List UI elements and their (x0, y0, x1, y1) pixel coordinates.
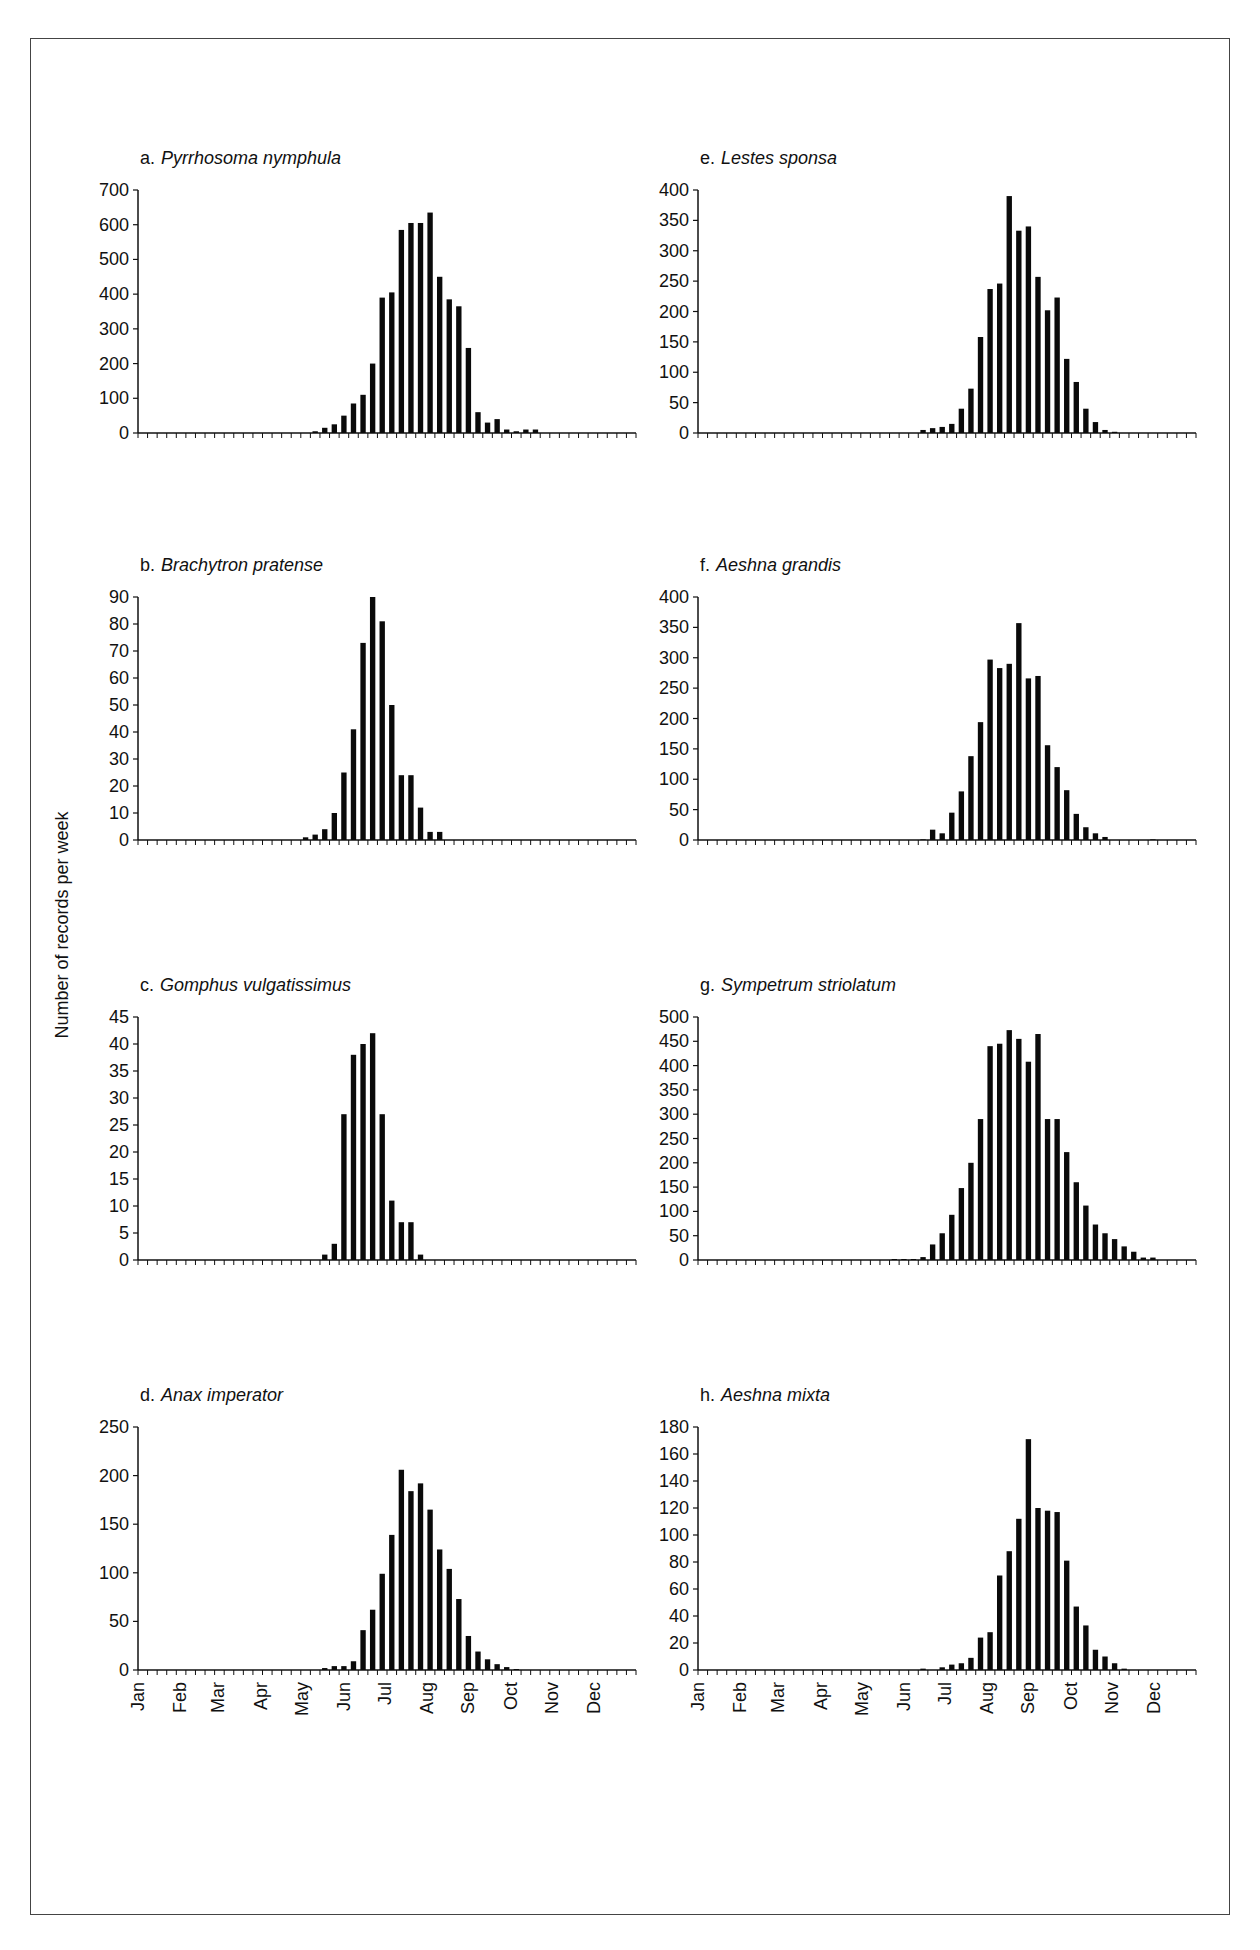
svg-text:450: 450 (659, 1031, 689, 1051)
species-name: Lestes sponsa (721, 148, 837, 168)
svg-text:150: 150 (659, 1177, 689, 1197)
svg-text:10: 10 (109, 803, 129, 823)
species-name: Sympetrum striolatum (721, 975, 896, 995)
svg-text:Oct: Oct (1061, 1682, 1081, 1710)
bar-chart: 050100150200250JanFebMarAprMayJunJulAugS… (90, 1415, 650, 1705)
species-name: Aeshna mixta (721, 1385, 830, 1405)
svg-text:300: 300 (659, 241, 689, 261)
svg-text:140: 140 (659, 1471, 689, 1491)
svg-text:35: 35 (109, 1061, 129, 1081)
svg-text:100: 100 (99, 1563, 129, 1583)
svg-text:Jan: Jan (128, 1682, 148, 1711)
svg-text:20: 20 (669, 1633, 689, 1653)
svg-text:200: 200 (659, 1153, 689, 1173)
svg-text:Jun: Jun (894, 1682, 914, 1711)
panel-d: d.Anax imperator 050100150200250JanFebMa… (90, 1385, 650, 1715)
svg-text:Oct: Oct (501, 1682, 521, 1710)
svg-text:400: 400 (659, 1056, 689, 1076)
svg-text:Dec: Dec (584, 1682, 604, 1714)
svg-text:250: 250 (659, 678, 689, 698)
svg-text:200: 200 (659, 302, 689, 322)
bar-chart: 0102030405060708090 (90, 585, 650, 875)
svg-text:50: 50 (669, 393, 689, 413)
svg-text:160: 160 (659, 1444, 689, 1464)
bar-chart: 050100150200250300350400 (650, 178, 1210, 468)
bar-chart: 0100200300400500600700 (90, 178, 650, 468)
svg-text:70: 70 (109, 641, 129, 661)
svg-text:0: 0 (679, 1660, 689, 1680)
svg-text:350: 350 (659, 1080, 689, 1100)
svg-text:30: 30 (109, 1088, 129, 1108)
svg-text:Sep: Sep (458, 1682, 478, 1714)
svg-text:40: 40 (109, 1034, 129, 1054)
svg-text:Nov: Nov (1102, 1682, 1122, 1714)
svg-text:5: 5 (119, 1223, 129, 1243)
svg-text:200: 200 (99, 354, 129, 374)
panel-letter: e. (700, 148, 715, 168)
svg-text:0: 0 (119, 423, 129, 443)
svg-text:150: 150 (659, 739, 689, 759)
bar-chart: 050100150200250300350400450500 (650, 1005, 1210, 1295)
svg-text:20: 20 (109, 1142, 129, 1162)
svg-text:Aug: Aug (977, 1682, 997, 1714)
svg-text:150: 150 (99, 1514, 129, 1534)
svg-text:25: 25 (109, 1115, 129, 1135)
svg-text:0: 0 (119, 1250, 129, 1270)
bar-chart: 051015202530354045 (90, 1005, 650, 1295)
svg-text:80: 80 (109, 614, 129, 634)
svg-text:50: 50 (669, 800, 689, 820)
svg-text:100: 100 (659, 769, 689, 789)
svg-text:Jul: Jul (375, 1682, 395, 1705)
panel-f: f.Aeshna grandis 05010015020025030035040… (650, 555, 1210, 885)
panel-letter: h. (700, 1385, 715, 1405)
svg-text:300: 300 (659, 648, 689, 668)
svg-text:30: 30 (109, 749, 129, 769)
panel-letter: d. (140, 1385, 155, 1405)
svg-text:350: 350 (659, 210, 689, 230)
svg-text:400: 400 (659, 587, 689, 607)
svg-text:100: 100 (99, 388, 129, 408)
svg-text:Aug: Aug (417, 1682, 437, 1714)
svg-text:60: 60 (109, 668, 129, 688)
svg-text:Sep: Sep (1018, 1682, 1038, 1714)
bar-chart: 050100150200250300350400 (650, 585, 1210, 875)
svg-text:700: 700 (99, 180, 129, 200)
svg-text:May: May (852, 1682, 872, 1716)
svg-text:300: 300 (659, 1104, 689, 1124)
svg-text:0: 0 (679, 1250, 689, 1270)
svg-text:45: 45 (109, 1007, 129, 1027)
panel-h: h.Aeshna mixta 020406080100120140160180J… (650, 1385, 1210, 1715)
svg-text:0: 0 (679, 423, 689, 443)
svg-text:0: 0 (679, 830, 689, 850)
svg-text:Apr: Apr (811, 1682, 831, 1710)
svg-text:300: 300 (99, 319, 129, 339)
species-name: Aeshna grandis (716, 555, 841, 575)
svg-text:20: 20 (109, 776, 129, 796)
svg-text:Apr: Apr (251, 1682, 271, 1710)
svg-text:100: 100 (659, 362, 689, 382)
panel-c: c.Gomphus vulgatissimus 0510152025303540… (90, 975, 650, 1305)
bar-chart: 020406080100120140160180JanFebMarAprMayJ… (650, 1415, 1210, 1705)
panel-letter: g. (700, 975, 715, 995)
svg-text:Feb: Feb (170, 1682, 190, 1713)
svg-text:180: 180 (659, 1417, 689, 1437)
svg-text:Mar: Mar (208, 1682, 228, 1713)
svg-text:90: 90 (109, 587, 129, 607)
svg-text:Jul: Jul (935, 1682, 955, 1705)
panel-a: a.Pyrrhosoma nymphula 010020030040050060… (90, 148, 650, 478)
panel-e: e.Lestes sponsa 050100150200250300350400 (650, 148, 1210, 478)
svg-text:60: 60 (669, 1579, 689, 1599)
panel-letter: c. (140, 975, 154, 995)
y-axis-label: Number of records per week (52, 811, 73, 1038)
svg-text:100: 100 (659, 1525, 689, 1545)
svg-text:40: 40 (109, 722, 129, 742)
svg-text:150: 150 (659, 332, 689, 352)
svg-text:May: May (292, 1682, 312, 1716)
svg-text:Jan: Jan (688, 1682, 708, 1711)
svg-text:600: 600 (99, 215, 129, 235)
panel-letter: a. (140, 148, 155, 168)
svg-text:15: 15 (109, 1169, 129, 1189)
svg-text:Mar: Mar (768, 1682, 788, 1713)
svg-text:Feb: Feb (730, 1682, 750, 1713)
svg-text:10: 10 (109, 1196, 129, 1216)
